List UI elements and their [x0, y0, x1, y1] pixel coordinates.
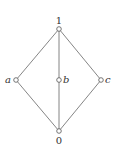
node-a — [14, 78, 19, 83]
nodes — [14, 27, 104, 134]
edge-a-bottom — [16, 80, 59, 131]
edge-top-a — [16, 29, 59, 80]
label-bottom: 0 — [56, 135, 62, 146]
node-bottom — [57, 129, 62, 134]
node-top — [57, 27, 62, 32]
edge-top-c — [59, 29, 101, 80]
hasse-diagram: 1 a b c 0 — [0, 0, 119, 155]
label-b: b — [63, 74, 69, 85]
label-top: 1 — [56, 15, 62, 26]
label-a: a — [5, 74, 11, 85]
label-c: c — [105, 74, 111, 85]
edge-c-bottom — [59, 80, 101, 131]
node-c — [99, 78, 104, 83]
node-b — [57, 78, 62, 83]
